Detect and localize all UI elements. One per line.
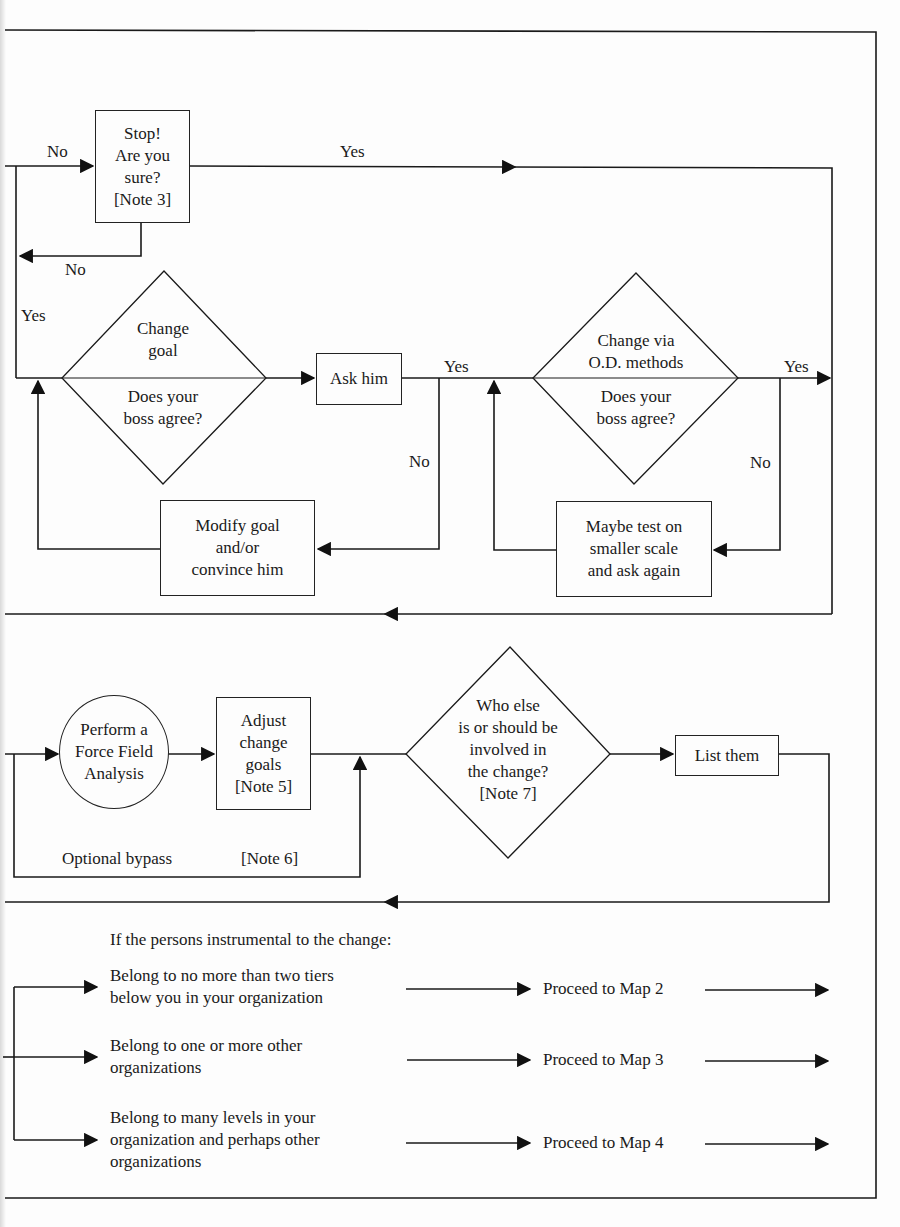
routing-intro: If the persons instrumental to the chang…	[110, 929, 391, 951]
force-field-analysis-circle: Perform a Force Field Analysis	[59, 695, 169, 809]
proceed-map-3-link[interactable]: Proceed to Map 3	[543, 1049, 663, 1071]
condition-3-text: Belong to many levels in your organizati…	[110, 1107, 320, 1173]
modify-goal-box: Modify goal and/or convince him	[160, 500, 315, 596]
edge-label-yes-od: Yes	[784, 356, 809, 378]
edge-label-no-od: No	[750, 452, 771, 474]
change-goal-diamond-question: Does your boss agree?	[90, 386, 236, 430]
edge-label-yes-from-stop: Yes	[340, 141, 365, 163]
condition-2-text: Belong to one or more other organization…	[110, 1035, 302, 1079]
edge-label-yes-ask: Yes	[444, 356, 469, 378]
who-else-diamond-text: Who else is or should be involved in the…	[430, 695, 586, 805]
condition-1-text: Belong to no more than two tiers below y…	[110, 965, 334, 1009]
change-goal-diamond-top: Change goal	[90, 318, 236, 362]
edge-label-no-ask: No	[409, 451, 430, 473]
maybe-test-box: Maybe test on smaller scale and ask agai…	[556, 501, 712, 597]
proceed-map-4-link[interactable]: Proceed to Map 4	[543, 1132, 663, 1154]
proceed-map-2-link[interactable]: Proceed to Map 2	[543, 978, 663, 1000]
edge-label-yes-left: Yes	[21, 305, 46, 327]
optional-bypass-label: Optional bypass	[62, 848, 172, 870]
ask-him-box: Ask him	[316, 353, 402, 405]
edge-label-no-into-stop: No	[47, 141, 68, 163]
stop-are-you-sure-box: Stop! Are you sure? [Note 3]	[95, 110, 190, 223]
edge-label-no-back: No	[65, 259, 86, 281]
bypass-note-label: [Note 6]	[241, 848, 298, 870]
od-methods-diamond-question: Does your boss agree?	[560, 386, 712, 430]
adjust-change-goals-box: Adjust change goals [Note 5]	[216, 697, 311, 810]
list-them-box: List them	[675, 735, 779, 776]
od-methods-diamond-top: Change via O.D. methods	[560, 330, 712, 374]
